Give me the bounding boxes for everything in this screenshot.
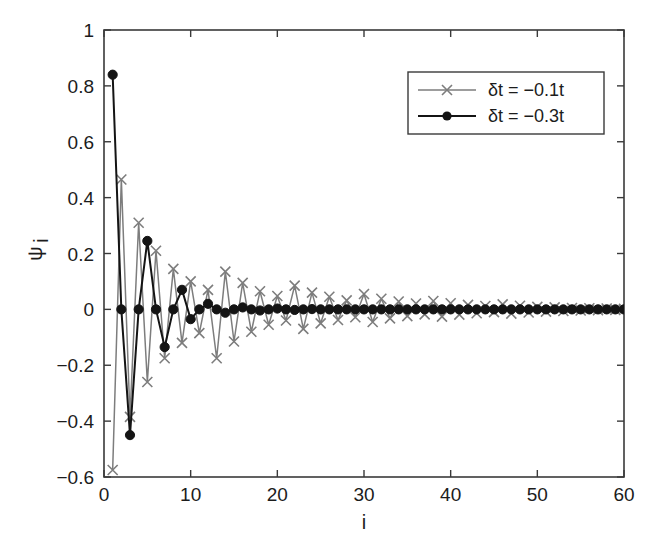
data-point-marker — [177, 285, 186, 294]
y-axis-title-subscript: i — [30, 238, 52, 242]
data-point-marker — [264, 320, 274, 330]
data-point-marker — [299, 305, 308, 314]
data-point-marker — [403, 305, 412, 314]
x-tick-label: 50 — [527, 484, 548, 505]
data-point-marker — [316, 305, 325, 314]
series-1 — [108, 174, 629, 475]
legend-label: δt = −0.3t — [488, 106, 564, 126]
y-tick-label: 0.6 — [68, 132, 94, 153]
data-point-marker — [368, 305, 377, 314]
data-point-marker — [611, 305, 620, 314]
data-point-marker — [498, 305, 507, 314]
data-point-marker — [212, 305, 221, 314]
y-tick-label: −0.6 — [56, 467, 94, 488]
data-point-marker — [472, 305, 481, 314]
x-tick-label: 20 — [267, 484, 288, 505]
y-tick-label: 0.2 — [68, 244, 94, 265]
series-line — [113, 179, 624, 470]
data-point-marker — [264, 305, 273, 314]
data-point-marker — [377, 305, 386, 314]
data-point-marker — [255, 306, 264, 315]
y-tick-label: 0.4 — [68, 188, 95, 209]
y-tick-label: −0.2 — [56, 355, 94, 376]
x-tick-label: 10 — [180, 484, 201, 505]
data-point-marker — [455, 305, 464, 314]
data-point-marker — [481, 305, 490, 314]
data-point-marker — [272, 291, 282, 301]
data-point-marker — [489, 305, 498, 314]
data-point-marker — [108, 70, 117, 79]
data-point-marker — [281, 316, 291, 326]
data-point-marker — [307, 288, 317, 298]
data-point-marker — [420, 305, 429, 314]
data-point-marker — [221, 308, 230, 317]
data-point-marker — [541, 305, 550, 314]
y-axis-title-text: ψ — [24, 246, 46, 260]
data-point-marker — [333, 305, 342, 314]
data-point-marker — [446, 305, 455, 314]
x-axis-title: i — [362, 511, 366, 533]
data-point-marker — [238, 303, 247, 312]
data-point-marker — [307, 304, 316, 313]
data-point-marker — [576, 305, 585, 314]
data-point-marker — [385, 313, 395, 323]
data-point-marker — [186, 315, 195, 324]
data-point-marker — [203, 299, 212, 308]
data-point-marker — [385, 305, 394, 314]
data-point-marker — [324, 292, 334, 302]
data-point-marker — [117, 305, 126, 314]
x-tick-label: 60 — [613, 484, 634, 505]
data-point-marker — [273, 304, 282, 313]
data-point-marker — [368, 317, 378, 327]
data-point-marker — [593, 305, 602, 314]
data-point-marker — [247, 305, 256, 314]
y-tick-label: −0.4 — [56, 411, 94, 432]
data-point-marker — [602, 305, 611, 314]
data-point-marker — [359, 289, 369, 299]
legend-label: δt = −0.1t — [488, 80, 564, 100]
data-point-marker — [524, 305, 533, 314]
data-point-marker — [559, 305, 568, 314]
data-point-marker — [281, 305, 290, 314]
y-tick-label: 0.8 — [68, 76, 94, 97]
x-tick-label: 30 — [353, 484, 374, 505]
data-point-marker — [351, 305, 360, 314]
data-point-marker — [533, 305, 542, 314]
data-point-marker — [550, 305, 559, 314]
data-point-marker — [342, 305, 351, 314]
data-point-marker — [507, 305, 516, 314]
data-point-marker — [585, 305, 594, 314]
data-point-marker — [437, 305, 446, 314]
legend-marker-circle-icon — [442, 111, 451, 120]
data-point-marker — [567, 305, 576, 314]
data-point-marker — [342, 295, 352, 305]
data-point-marker — [169, 305, 178, 314]
data-point-marker — [619, 305, 628, 314]
chart-figure: 0102030405060−0.6−0.4−0.200.20.40.60.81i… — [0, 0, 663, 548]
plot-canvas: 0102030405060−0.6−0.4−0.200.20.40.60.81i… — [0, 0, 663, 548]
data-point-marker — [134, 305, 143, 314]
data-point-marker — [463, 305, 472, 314]
data-point-marker — [290, 305, 299, 314]
data-point-marker — [376, 294, 386, 304]
data-point-marker — [151, 305, 160, 314]
x-tick-label: 0 — [99, 484, 110, 505]
data-point-marker — [325, 305, 334, 314]
y-tick-label: 0 — [83, 299, 94, 320]
data-point-marker — [515, 305, 524, 314]
data-point-marker — [160, 342, 169, 351]
data-point-marker — [333, 315, 343, 325]
data-point-marker — [125, 430, 134, 439]
data-point-marker — [229, 305, 238, 314]
x-tick-label: 40 — [440, 484, 461, 505]
y-axis-title: ψi — [24, 238, 52, 260]
data-point-marker — [394, 305, 403, 314]
data-point-marker — [411, 305, 420, 314]
data-point-marker — [316, 318, 326, 328]
data-point-marker — [195, 305, 204, 314]
legend: δt = −0.1tδt = −0.3t — [408, 72, 604, 134]
data-point-marker — [359, 305, 368, 314]
y-tick-label: 1 — [83, 20, 94, 41]
data-point-marker — [429, 305, 438, 314]
data-point-marker — [143, 236, 152, 245]
